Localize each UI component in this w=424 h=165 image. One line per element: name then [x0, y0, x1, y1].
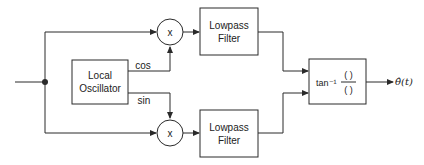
mixer-top-label: x	[157, 19, 183, 45]
lpf-top-label: Lowpass Filter	[200, 8, 258, 55]
local-oscillator-label: Local Oscillator	[72, 60, 128, 104]
arctan-denominator: ( )	[341, 84, 356, 96]
arctan-prefix: tan⁻¹	[316, 77, 342, 89]
cos-label: cos	[133, 60, 153, 72]
sin-label: sin	[134, 95, 154, 107]
lpf-top-to-arctan-arrow	[258, 32, 308, 71]
output-theta-hat-label: θ̂(t)	[395, 76, 421, 88]
junction-dot	[42, 79, 48, 85]
arctan-numerator: ( )	[341, 69, 356, 81]
lpf-bottom-to-arctan-arrow	[258, 93, 308, 133]
lpf-bottom-label: Lowpass Filter	[200, 110, 258, 157]
mixer-bottom-label: x	[157, 120, 183, 146]
